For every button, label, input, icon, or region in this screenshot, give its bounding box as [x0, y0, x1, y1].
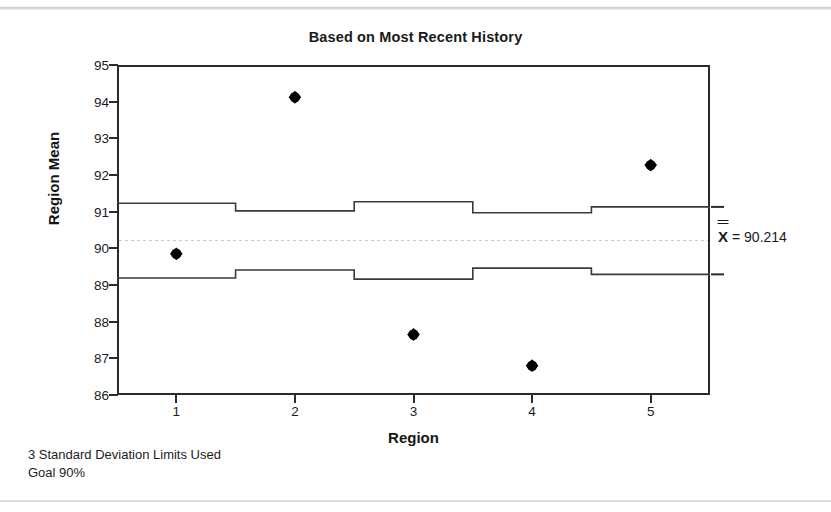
x-tick-label: 3: [394, 404, 434, 419]
y-tick-label: 87: [75, 351, 109, 366]
mean-value-text: = 90.214: [732, 229, 787, 245]
y-tick-mark: [109, 284, 118, 286]
x-tick-mark: [531, 394, 533, 403]
y-tick-label: 88: [75, 314, 109, 329]
y-tick-mark: [109, 174, 118, 176]
footnote-std-dev: 3 Standard Deviation Limits Used: [28, 446, 221, 464]
x-tick-mark: [650, 394, 652, 403]
x-tick-label: 2: [275, 404, 315, 419]
y-tick-label: 90: [75, 241, 109, 256]
y-tick-label: 86: [75, 388, 109, 403]
x-tick-mark: [175, 394, 177, 403]
double-bar-icon: [718, 220, 729, 225]
y-tick-mark: [109, 321, 118, 323]
x-tick-mark: [294, 394, 296, 403]
y-tick-mark: [109, 101, 118, 103]
y-tick-mark: [109, 357, 118, 359]
scan-artifact-top: [0, 6, 831, 10]
x-tick-label: 1: [156, 404, 196, 419]
x-double-bar-symbol: X: [718, 228, 728, 245]
grand-mean-annotation: X= 90.214: [718, 228, 787, 245]
y-tick-label: 92: [75, 168, 109, 183]
y-tick-mark: [109, 211, 118, 213]
y-tick-label: 94: [75, 94, 109, 109]
chart-page: Based on Most Recent History Region Mean…: [0, 0, 831, 512]
x-axis-title: Region: [117, 429, 710, 446]
x-tick-label: 4: [512, 404, 552, 419]
chart-title: Based on Most Recent History: [0, 29, 831, 45]
y-tick-label: 95: [75, 58, 109, 73]
x-tick-mark: [413, 394, 415, 403]
scan-artifact-bottom: [0, 500, 831, 502]
y-tick-mark: [109, 137, 118, 139]
x-tick-label: 5: [631, 404, 671, 419]
y-tick-label: 91: [75, 204, 109, 219]
y-tick-label: 93: [75, 131, 109, 146]
y-tick-mark: [109, 394, 118, 396]
footnotes: 3 Standard Deviation Limits Used Goal 90…: [28, 446, 221, 482]
mean-symbol-letter: X: [718, 228, 728, 245]
y-tick-mark: [109, 247, 118, 249]
y-tick-mark: [109, 64, 118, 66]
plot-frame: [117, 65, 710, 395]
y-axis-title: Region Mean: [45, 79, 62, 279]
footnote-goal: Goal 90%: [28, 464, 221, 482]
y-tick-label: 89: [75, 278, 109, 293]
